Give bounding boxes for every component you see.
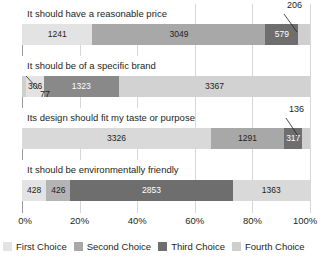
bar-segment[interactable]: 1291	[211, 128, 284, 149]
bar-segment[interactable]: 317	[284, 128, 302, 149]
bar-group: Its design should fit my taste or purpos…	[22, 108, 310, 160]
bar-segment[interactable]: 428	[22, 180, 46, 201]
legend-label: Second Choice	[87, 241, 151, 252]
legend-item[interactable]: Second Choice	[74, 241, 151, 252]
legend-label: Third Choice	[171, 241, 225, 252]
value-callout: 136	[289, 104, 304, 114]
stacked-bar[interactable]: 33261291317	[22, 128, 310, 149]
chart-legend: First ChoiceSecond ChoiceThird ChoiceFou…	[3, 239, 322, 253]
bar-group: It should be environmentally friendly428…	[22, 160, 310, 212]
stacked-bar[interactable]: 12413049579	[22, 24, 310, 45]
stacked-bar-chart: It should have a reasonable price1241304…	[0, 0, 325, 260]
bar-segment[interactable]: 1363	[233, 180, 310, 201]
gridline	[310, 4, 311, 213]
bar-segment[interactable]: 2853	[70, 180, 232, 201]
bar-segment[interactable]	[298, 24, 310, 45]
x-axis-tick-label: 20%	[70, 215, 89, 226]
x-axis: 0%20%40%60%80%100%	[22, 213, 310, 231]
x-axis-tick-label: 40%	[128, 215, 147, 226]
bar-group: It should be of a specific brand30613233…	[22, 56, 310, 108]
value-callout: 77	[40, 89, 50, 99]
legend-item[interactable]: First Choice	[3, 241, 67, 252]
stacked-bar[interactable]: 42842628531363	[22, 180, 310, 201]
bar-segment[interactable]: 1241	[22, 24, 92, 45]
bar-category-label: It should be of a specific brand	[22, 56, 156, 76]
x-axis-tick-label: 0%	[18, 215, 32, 226]
bar-segment[interactable]	[302, 128, 310, 149]
legend-label: First Choice	[16, 241, 67, 252]
bar-category-label: Its design should fit my taste or purpos…	[22, 108, 195, 128]
value-callout: 206	[287, 0, 302, 10]
legend-item[interactable]: Fourth Choice	[232, 241, 305, 252]
legend-item[interactable]: Third Choice	[158, 241, 225, 252]
bar-segment[interactable]: 3326	[22, 128, 211, 149]
bar-segment[interactable]: 426	[46, 180, 70, 201]
stacked-bar[interactable]: 30613233367	[22, 76, 310, 97]
bar-segment[interactable]: 1323	[44, 76, 119, 97]
bar-segment[interactable]: 3049	[92, 24, 265, 45]
legend-swatch-icon	[158, 242, 167, 251]
bar-category-label: It should have a reasonable price	[22, 4, 167, 24]
x-axis-tick-label: 80%	[243, 215, 262, 226]
legend-swatch-icon	[74, 242, 83, 251]
plot-area: It should have a reasonable price1241304…	[22, 4, 310, 213]
bar-group: It should have a reasonable price1241304…	[22, 4, 310, 56]
legend-swatch-icon	[232, 242, 241, 251]
bar-category-label: It should be environmentally friendly	[22, 160, 179, 180]
x-axis-tick-label: 100%	[293, 215, 317, 226]
bar-segment[interactable]: 3367	[119, 76, 310, 97]
x-axis-tick-label: 60%	[185, 215, 204, 226]
bar-segment[interactable]: 579	[265, 24, 298, 45]
legend-swatch-icon	[3, 242, 12, 251]
legend-label: Fourth Choice	[245, 241, 305, 252]
